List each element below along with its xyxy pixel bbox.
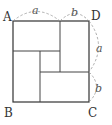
vertex-label-a: A xyxy=(2,10,12,24)
segment-label-top-b: b xyxy=(71,6,78,19)
outer-square xyxy=(13,21,89,102)
diagram-canvas: A B C D a b a b xyxy=(0,0,112,125)
segment-label-top-a: a xyxy=(32,4,39,17)
segment-label-right-a: a xyxy=(96,42,103,55)
vertex-label-b: B xyxy=(4,106,13,120)
segment-label-right-b: b xyxy=(95,82,102,95)
vertex-label-d: D xyxy=(91,9,101,23)
vertex-label-c: C xyxy=(88,106,97,120)
